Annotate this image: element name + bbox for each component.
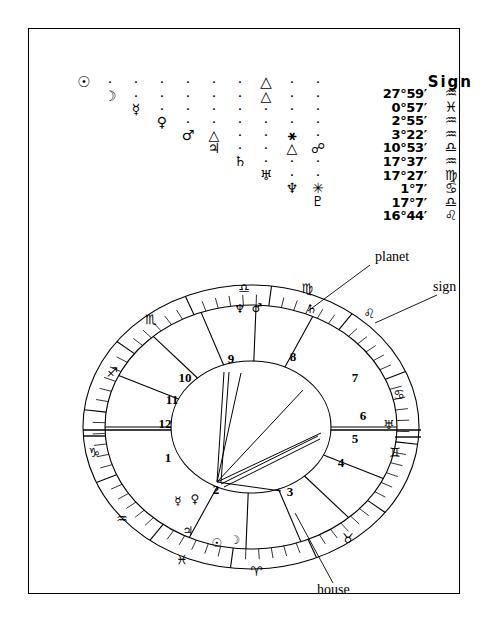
sign-division-tick xyxy=(231,548,234,568)
wheel-planet-sun: ☉ xyxy=(212,536,223,550)
aspect-header-mercury: · xyxy=(123,75,149,90)
wheel-sign-libra: ♎ xyxy=(238,281,250,296)
house-number-9: 9 xyxy=(228,351,235,366)
aspect-cell: · xyxy=(175,103,201,116)
house-number-5: 5 xyxy=(352,431,359,446)
aspect-header-mars: · xyxy=(175,75,201,90)
degree-tick xyxy=(167,531,174,540)
wheel-sign-taurus: ♉ xyxy=(342,531,354,546)
aspect-cell: · xyxy=(253,142,279,155)
degree-tick xyxy=(317,309,323,318)
chart-page: ☉·☽··☿···♀····♂····△♃······♄△△·····♅····… xyxy=(0,0,486,620)
aspect-grid: ☉·☽··☿···♀····♂····△♃······♄△△·····♅····… xyxy=(71,75,331,220)
aspect-cell: ☽ xyxy=(97,90,123,103)
wheel-planet-mars: ♂ xyxy=(252,301,263,315)
aspect-column-mercury: ··☿ xyxy=(123,75,149,116)
degree-tick xyxy=(259,549,260,559)
degree-tick xyxy=(202,301,206,311)
sign-division-tick xyxy=(117,342,135,354)
aspect-cell: · xyxy=(227,129,253,142)
degree-tick xyxy=(117,357,128,362)
sign-division-tick xyxy=(368,500,386,512)
sign-leader xyxy=(375,295,437,323)
degree-tick xyxy=(165,316,172,325)
sign-division-tick xyxy=(269,286,272,306)
wheel-sign-aquarius: ♒ xyxy=(116,511,128,526)
degree-tick xyxy=(93,433,105,434)
planet-glyph-labels: ♆♂♄♅☿♀♃☉☽ xyxy=(174,301,394,550)
house-cusp-9 xyxy=(305,476,349,518)
aspect-header-jupiter: · xyxy=(201,75,227,90)
house-cusp-8 xyxy=(324,455,384,479)
degree-tick xyxy=(381,482,392,487)
house-number-7: 7 xyxy=(352,370,359,385)
wheel-sign-cancer: ♋ xyxy=(393,387,405,402)
wheel-sign-scorpio: ♏ xyxy=(145,312,157,327)
house-number-3: 3 xyxy=(287,484,294,499)
house-number-12: 12 xyxy=(159,416,172,431)
house-number-labels: 981011121234567 xyxy=(159,349,367,499)
aspect-cell: · xyxy=(279,103,305,116)
aspect-column-sun: ☉ xyxy=(71,75,97,90)
degree-tick xyxy=(100,465,112,468)
aspect-cell: · xyxy=(175,90,201,103)
degree-tick xyxy=(358,337,367,344)
wheel-sign-gemini: ♊ xyxy=(389,445,401,460)
aspect-cell: △ xyxy=(279,142,305,155)
aspect-cell: ♂ xyxy=(175,129,201,142)
ascendant-axis xyxy=(83,430,421,437)
degree-tick xyxy=(111,484,122,489)
wheel-planet-uranus: ♅ xyxy=(384,418,395,432)
aspect-cell: · xyxy=(227,90,253,103)
degree-tick xyxy=(133,338,142,345)
sign-division-tick xyxy=(96,475,116,483)
sign-division-tick xyxy=(396,442,418,444)
degree-tick xyxy=(96,400,108,402)
degree-tick xyxy=(284,546,287,556)
zodiac-wheel: 981011121234567 ♎♍♏♌♋♊♐♑♒♓♈♉ ♆♂♄♅☿♀♃☉☽ p… xyxy=(65,251,479,601)
position-degrees: 10°53′ xyxy=(325,141,427,155)
degree-tick xyxy=(215,298,218,308)
degree-tick xyxy=(126,502,136,508)
house-cusp-11 xyxy=(246,493,248,549)
degree-tick xyxy=(271,548,273,558)
position-degrees: 17°7′ xyxy=(325,196,427,210)
degree-tick xyxy=(396,409,408,410)
position-sign-glyph: ♌ xyxy=(431,209,471,223)
degree-tick xyxy=(118,493,129,499)
degree-tick xyxy=(373,355,384,361)
position-degrees: 17°37′ xyxy=(325,155,427,169)
wheel-planet-mercury: ☿ xyxy=(174,494,181,508)
aspect-cell: · xyxy=(201,103,227,116)
degree-tick xyxy=(331,529,338,538)
aspect-cell: · xyxy=(253,129,279,142)
degree-tick xyxy=(294,300,298,310)
wheel-planet-moon: ☽ xyxy=(230,533,241,547)
aspect-column-uranus: △△·····♅ xyxy=(253,75,279,182)
aspect-cell: ☿ xyxy=(123,103,149,116)
wheel-planet-neptune: ♆ xyxy=(235,302,246,316)
aspect-cell: · xyxy=(279,155,305,168)
aspect-header-saturn: · xyxy=(227,75,253,90)
house-cusp-4 xyxy=(201,312,224,365)
degree-tick xyxy=(360,509,369,516)
aspect-cell: ♄ xyxy=(227,155,253,168)
degree-tick xyxy=(351,516,359,524)
house-number-6: 6 xyxy=(360,408,367,423)
degree-tick xyxy=(281,298,284,308)
degree-tick xyxy=(349,329,357,337)
sign-callout: sign xyxy=(433,279,456,294)
aspect-column-jupiter: ····△♃ xyxy=(201,75,227,155)
position-degrees: 2°55′ xyxy=(325,114,427,128)
aspect-column-saturn: ······♄ xyxy=(227,75,253,169)
aspect-cell: △ xyxy=(253,90,279,103)
aspect-column-moon: ·☽ xyxy=(97,75,123,103)
house-number-1: 1 xyxy=(165,450,172,465)
position-degrees: 27°59′ xyxy=(325,87,427,101)
degree-tick xyxy=(100,388,112,391)
aspect-header-venus: · xyxy=(149,75,175,90)
degree-tick xyxy=(229,296,231,306)
wheel-sign-sagittarius: ♐ xyxy=(106,365,118,380)
degree-tick xyxy=(296,543,300,553)
degree-tick xyxy=(192,540,197,550)
